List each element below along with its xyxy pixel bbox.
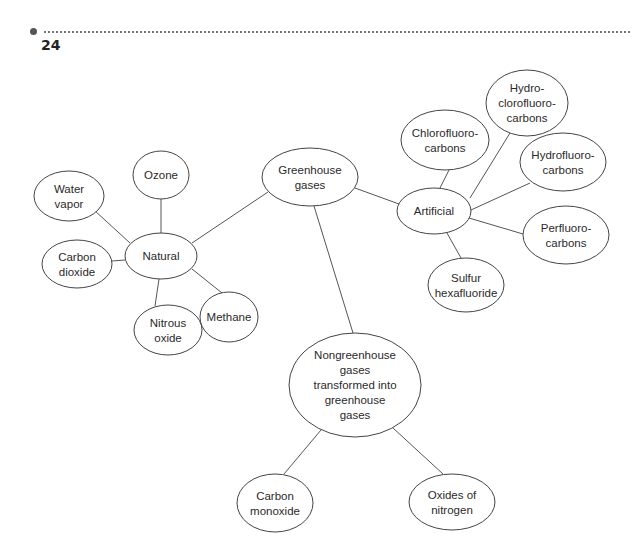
node-label: Hydrofluoro- xyxy=(531,149,594,161)
node-label: Carbon xyxy=(58,251,96,263)
node-label: Perfluoro- xyxy=(541,222,592,234)
node-label: carbons xyxy=(507,112,548,124)
node-label: Artificial xyxy=(414,205,454,217)
node-ellipse xyxy=(520,133,606,191)
node-ellipse xyxy=(42,240,112,288)
node-ozone: Ozone xyxy=(133,151,189,199)
node-label: Carbon xyxy=(256,490,294,502)
edge-greenhouse-nongreen xyxy=(314,206,353,333)
node-label: monoxide xyxy=(250,505,300,517)
node-water: Watervapor xyxy=(34,171,104,221)
node-label: Water xyxy=(54,183,84,195)
node-nox: Oxides ofnitrogen xyxy=(409,474,495,530)
nodes: GreenhousegasesNaturalOzoneWatervaporCar… xyxy=(34,70,609,532)
node-label: oxide xyxy=(154,332,182,344)
node-label: Chlorofluoro- xyxy=(412,127,479,139)
node-label: gases xyxy=(340,409,371,421)
edge-artificial-hfc xyxy=(471,183,530,210)
edge-artificial-sf6 xyxy=(447,233,461,258)
edge-nongreen-nox xyxy=(393,428,443,474)
node-n2o: Nitrousoxide xyxy=(134,305,202,355)
node-pfc: Perfluoro-carbons xyxy=(523,206,609,264)
edge-greenhouse-artificial xyxy=(355,188,399,204)
node-label: nitrogen xyxy=(431,504,473,516)
node-nongreen: Nongreenhousegasestransformed intogreenh… xyxy=(289,333,421,437)
node-hcfc: Hydro-clorofluoro-carbons xyxy=(486,70,568,136)
node-label: Nongreenhouse xyxy=(314,349,396,361)
node-label: carbons xyxy=(543,164,584,176)
node-label: Ozone xyxy=(144,169,178,181)
node-ellipse xyxy=(34,171,104,221)
node-label: Natural xyxy=(142,250,179,262)
node-label: carbons xyxy=(425,142,466,154)
node-greenhouse: Greenhousegases xyxy=(262,148,358,206)
node-sf6: Sulfurhexafluoride xyxy=(428,258,504,312)
node-methane: Methane xyxy=(200,292,258,342)
node-natural: Natural xyxy=(125,233,197,279)
node-artificial: Artificial xyxy=(397,188,471,234)
node-ellipse xyxy=(409,474,495,530)
node-label: vapor xyxy=(55,198,84,210)
node-ellipse xyxy=(523,206,609,264)
edge-natural-n2o xyxy=(155,279,159,306)
node-label: gases xyxy=(340,364,371,376)
edge-nongreen-co xyxy=(284,430,321,474)
edge-artificial-pfc xyxy=(469,218,523,234)
node-label: greenhouse xyxy=(325,394,386,406)
node-hfc: Hydrofluoro-carbons xyxy=(520,133,606,191)
node-cfc: Chlorofluoro-carbons xyxy=(401,110,489,170)
node-ellipse xyxy=(134,305,202,355)
edge-natural-methane xyxy=(192,269,222,293)
edge-artificial-cfc xyxy=(440,170,449,188)
node-label: Methane xyxy=(207,311,252,323)
node-label: carbons xyxy=(546,237,587,249)
node-ellipse xyxy=(428,258,504,312)
node-label: Nitrous xyxy=(150,317,187,329)
node-label: dioxide xyxy=(59,266,95,278)
node-label: Greenhouse xyxy=(278,164,341,176)
node-label: transformed into xyxy=(313,379,396,391)
node-label: Hydro- xyxy=(510,82,545,94)
greenhouse-gases-concept-map: GreenhousegasesNaturalOzoneWatervaporCar… xyxy=(0,0,637,552)
node-ellipse xyxy=(262,148,358,206)
node-co2: Carbondioxide xyxy=(42,240,112,288)
node-label: clorofluoro- xyxy=(498,97,556,109)
node-co: Carbonmonoxide xyxy=(237,474,313,532)
node-label: gases xyxy=(295,179,326,191)
node-label: hexafluoride xyxy=(435,287,498,299)
node-ellipse xyxy=(401,110,489,170)
edge-greenhouse-natural xyxy=(192,192,268,243)
edge-natural-water xyxy=(94,210,130,243)
node-label: Oxides of xyxy=(428,489,477,501)
node-ellipse xyxy=(237,474,313,532)
edge-natural-co2 xyxy=(112,260,125,261)
node-label: Sulfur xyxy=(451,272,481,284)
